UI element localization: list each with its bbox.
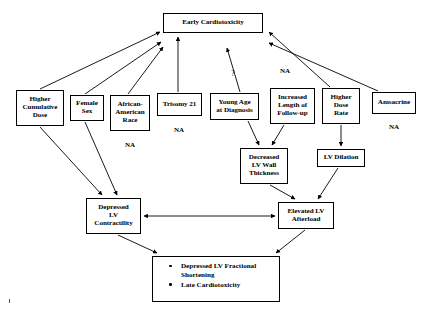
list-item: Late Cardiotoxicity [169,281,273,290]
node-female-sex[interactable]: FemaleSex [70,95,104,121]
node-trisomy-21-label: Trisomy 21 [160,101,199,109]
node-early-cardiotoxicity[interactable]: Early Cardiotoxicity [163,13,263,33]
edge-depressed-lv-contractility-to-late-outcomes [118,235,157,253]
edge-increased-length-to-decreased-lv-wall-thickness [272,125,284,145]
edge-elevated-lv-afterload-to-late-outcomes [276,230,305,253]
edge-young-age-to-decreased-lv-wall-thickness [248,121,259,145]
scan-artifact [9,299,10,303]
node-higher-dose-rate-label: HigherDoseRate [325,94,357,118]
annotation-na-follow-up: NA [275,67,295,75]
node-decreased-lv-wall-thickness[interactable]: DecreasedLV WallThickness [240,148,288,184]
node-amsacrine[interactable]: Amsacrine [372,92,416,114]
list-item: Depressed LV Fractional Shortening [169,262,273,280]
node-increased-length-of-follow-up-label: IncreasedLength ofFollow-up [273,94,312,118]
node-elevated-lv-afterload[interactable]: Elevated LVAfterload [278,202,334,229]
node-depressed-lv-contractility[interactable]: DepressedLVContractility [86,198,141,234]
late-outcome-text: Depressed LV Fractional Shortening [181,262,256,279]
edge-female-sex-to-early-cardiotoxicity [85,42,161,94]
edge-higher-cumulative-dose-to-early-cardiotoxicity [40,32,160,89]
node-early-cardiotoxicity-label: Early Cardiotoxicity [166,19,260,27]
node-trisomy-21[interactable]: Trisomy 21 [157,93,202,116]
node-lv-dilation[interactable]: LV Dilation [317,149,365,167]
node-elevated-lv-afterload-label: Elevated LVAfterload [281,208,331,224]
edge-lv-dilation-to-elevated-lv-afterload [318,168,338,199]
late-outcome-text: Late Cardiotoxicity [181,281,240,289]
diagram-canvas: Early Cardiotoxicity HigherCumulativeDos… [0,0,428,311]
node-african-american-race-label: African-AmericanRace [113,101,147,125]
bullet-icon [169,265,172,268]
node-amsacrine-label: Amsacrine [375,99,413,107]
bullet-icon [169,283,172,286]
node-young-age-at-diagnosis-label: Young Ageat Diagnosis [213,99,256,115]
edge-female-sex-to-depressed-lv-contractility [85,122,117,195]
node-depressed-lv-contractility-label: DepressedLVContractility [89,204,138,228]
annotation-na-trisomy-21: NA [169,126,189,134]
node-higher-dose-rate[interactable]: HigherDoseRate [322,88,360,124]
edge-higher-cumulative-dose-to-depressed-lv-contractility [40,127,102,195]
node-higher-cumulative-dose-label: HigherCumulativeDose [19,96,61,120]
node-decreased-lv-wall-thickness-label: DecreasedLV WallThickness [243,154,285,178]
node-young-age-at-diagnosis[interactable]: Young Ageat Diagnosis [210,93,259,120]
node-lv-dilation-label: LV Dilation [320,154,362,162]
annotation-na-african-american-race: NA [120,141,140,149]
node-african-american-race[interactable]: African-AmericanRace [110,95,150,131]
node-female-sex-label: FemaleSex [73,100,101,116]
node-increased-length-of-follow-up[interactable]: IncreasedLength ofFollow-up [270,88,315,124]
annotation-question-mark: ? [228,69,238,78]
edge-african-american-race-to-early-cardiotoxicity [128,47,163,94]
annotation-na-amsacrine: NA [384,123,404,131]
edge-decreased-lv-wall-thickness-to-elevated-lv-afterload [270,185,295,199]
edge-higher-dose-rate-to-early-cardiotoxicity [269,32,330,87]
late-outcomes-list: Depressed LV Fractional Shortening Late … [169,262,273,290]
node-late-outcomes[interactable]: Depressed LV Fractional Shortening Late … [152,256,280,302]
node-higher-cumulative-dose[interactable]: HigherCumulativeDose [16,90,64,126]
